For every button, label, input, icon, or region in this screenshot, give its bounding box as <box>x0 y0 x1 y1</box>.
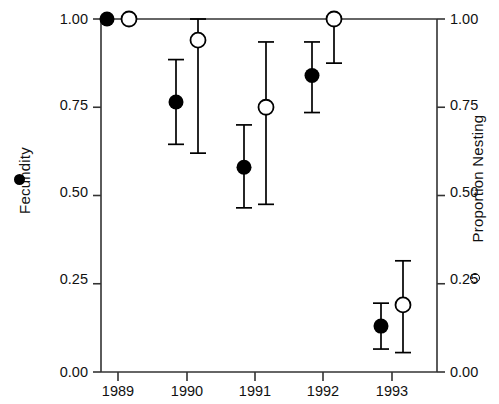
data-point-filled <box>305 68 320 83</box>
y-tick-label: 0.50 <box>38 184 88 200</box>
axis-lines <box>101 19 437 372</box>
data-point-filled <box>169 94 184 109</box>
plot-area <box>0 0 499 404</box>
tick-marks <box>93 19 445 381</box>
data-point-filled <box>374 319 389 334</box>
data-point-open <box>191 33 206 48</box>
chart-container: Fecundity Proportion Nesting 1.000.750.5… <box>0 0 499 404</box>
y-tick-label: 0.00 <box>450 364 499 380</box>
x-tick-label: 1989 <box>88 383 148 399</box>
x-tick-label: 1993 <box>362 383 422 399</box>
x-tick-label: 1992 <box>293 383 353 399</box>
y-tick-label: 1.00 <box>38 11 88 27</box>
y-tick-label: 1.00 <box>450 11 499 27</box>
data-point-open <box>327 12 342 27</box>
y-tick-label: 0.25 <box>450 271 499 287</box>
data-points-layer <box>100 12 412 353</box>
data-point-open <box>259 100 274 115</box>
y-tick-label: 0.00 <box>38 364 88 380</box>
data-point-filled <box>100 12 115 27</box>
y-tick-label: 0.50 <box>450 184 499 200</box>
data-point-open <box>122 12 137 27</box>
y-tick-label: 0.25 <box>38 271 88 287</box>
y-tick-label: 0.75 <box>450 97 499 113</box>
data-point-open <box>396 297 411 312</box>
y-tick-label: 0.75 <box>38 97 88 113</box>
x-tick-label: 1991 <box>225 383 285 399</box>
data-point-filled <box>237 160 252 175</box>
x-tick-label: 1990 <box>157 383 217 399</box>
